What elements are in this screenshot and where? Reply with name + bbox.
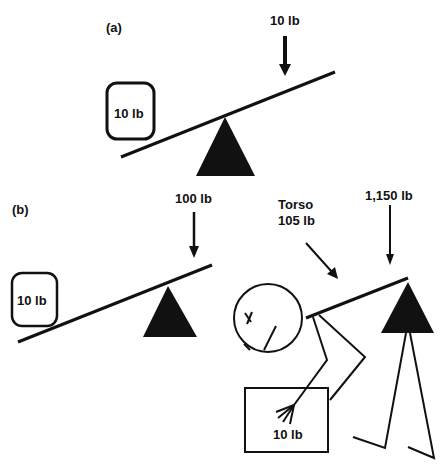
near-leg xyxy=(353,333,406,448)
panel-a-fulcrum xyxy=(196,117,255,176)
hand-fingers xyxy=(276,405,294,424)
spine-force-label: 1,150 lb xyxy=(365,188,413,203)
panel-a-label: (a) xyxy=(106,20,122,35)
carried-box-label: 10 lb xyxy=(273,427,303,442)
panel-b-force-arrow xyxy=(189,212,199,258)
eye-x-mark xyxy=(245,312,252,324)
far-leg xyxy=(408,333,434,458)
panel-a-force-label: 10 lb xyxy=(270,13,300,28)
torso-weight-label: 105 lb xyxy=(278,213,315,228)
torso-arrow xyxy=(306,243,338,279)
panel-b-force-label: 100 lb xyxy=(175,191,212,206)
panel-b-fulcrum xyxy=(143,286,197,337)
spine-force-arrow xyxy=(386,205,394,265)
panel-b-box-label: 10 lb xyxy=(17,293,47,308)
panel-a-force-arrow xyxy=(279,36,291,76)
torso-label: Torso xyxy=(278,197,313,212)
carried-weight-box xyxy=(245,388,328,452)
panel-b-label: (b) xyxy=(12,202,29,217)
mouth-line xyxy=(264,326,276,350)
hip-fulcrum xyxy=(381,282,434,333)
panel-a-box-label: 10 lb xyxy=(114,106,144,121)
lever-diagram: (a) 10 lb 10 lb (b) 100 lb 10 lb Torso 1… xyxy=(0,0,446,466)
